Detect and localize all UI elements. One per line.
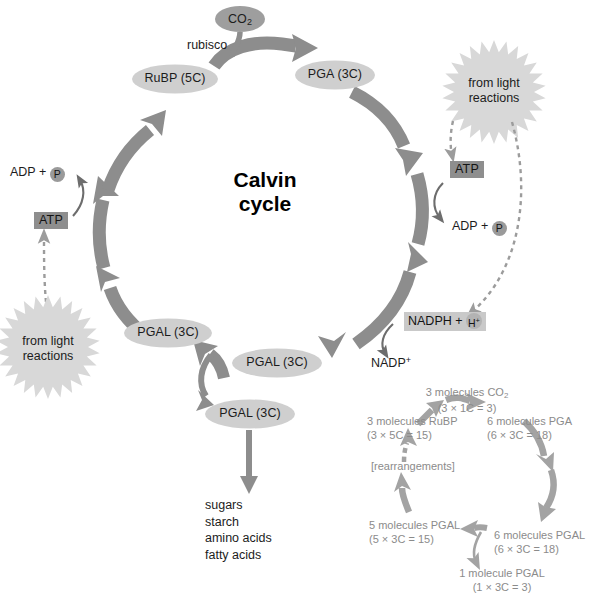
cycle-arrow-to-pgal — [318, 272, 410, 358]
right-light-line1: from light — [468, 76, 519, 90]
summary-pga-line1: 6 molecules PGA — [487, 415, 572, 427]
summary-pgal5-line1: 5 molecules PGAL — [369, 519, 460, 531]
summary-rearrangements-label: [rearrangements] — [371, 459, 491, 473]
cycle-arrow-pga-down — [352, 92, 423, 176]
right-light-dashed-atp — [451, 121, 453, 155]
summary-pgal6-line2: (6 × 3C = 18) — [494, 543, 559, 555]
proton-icon: H+ — [466, 313, 482, 329]
summary-pga-label: 6 molecules PGA(6 × 3C = 18) — [487, 414, 605, 442]
summary-rubp-line1: 3 molecules RuBP — [367, 415, 458, 427]
cycle-arrow-rubp-to-pga — [214, 34, 318, 66]
center-title-line1: Calvin — [233, 168, 296, 191]
summary-pga-line2: (6 × 3C = 18) — [487, 429, 552, 441]
cycle-arrow-left-middle — [93, 176, 119, 268]
left-phosphate-icon: P — [50, 167, 65, 182]
summary-arrow-right-down — [538, 470, 556, 522]
summary-pgal5-label: 5 molecules PGAL(5 × 3C = 15) — [369, 518, 491, 546]
nadph-text: NADPH + — [408, 314, 466, 328]
summary-arrow-pgal5-up — [394, 472, 411, 512]
summary-pgal6-label: 6 molecules PGAL(6 × 3C = 18) — [494, 528, 608, 556]
calvin-cycle-diagram: CO2 rubisco RuBP (5C) PGA (3C) PGAL (3C)… — [0, 0, 608, 600]
summary-pgal6-line1: 6 molecules PGAL — [494, 529, 585, 541]
node-label-pgal-bottom: PGAL (3C) — [231, 355, 323, 369]
center-title-line2: cycle — [239, 192, 292, 215]
node-label-pgal-exit: PGAL (3C) — [204, 406, 296, 420]
node-label-pga: PGA (3C) — [292, 67, 378, 81]
right-adp-text: ADP + — [452, 219, 492, 233]
summary-pgal1-line1: 1 molecule PGAL — [459, 567, 545, 579]
right-adp-label: ADP + P — [452, 219, 507, 236]
nadph-badge: NADPH + H+ — [404, 312, 486, 331]
right-atp-to-adp-arrow — [434, 183, 443, 218]
co2-label: CO2 — [215, 12, 265, 27]
cycle-arrow-right-middle — [407, 174, 428, 272]
right-light-reactions-label: from lightreactions — [448, 76, 540, 106]
summary-co2-label: 3 molecules CO2(3 × 1C = 3) — [392, 385, 542, 415]
summary-rubp-line2: (3 × 5C = 15) — [367, 429, 432, 441]
products-list: sugars starch amino acids fatty acids — [205, 497, 272, 564]
summary-rubp-label: 3 molecules RuBP(3 × 5C = 15) — [367, 414, 485, 442]
left-light-line1: from light — [22, 334, 73, 348]
left-atp-badge: ATP — [34, 212, 68, 229]
products-arrow — [240, 430, 258, 494]
left-light-dashed-arrow — [44, 236, 46, 302]
page-title: Calvincycle — [205, 168, 325, 216]
left-light-reactions-label: from lightreactions — [4, 334, 92, 364]
cycle-arrow-to-rubp — [108, 110, 166, 190]
left-adp-text: ADP + — [10, 165, 50, 179]
right-light-dashed-nadph — [472, 122, 521, 312]
right-atp-badge: ATP — [450, 161, 484, 178]
left-adp-label: ADP + P — [10, 165, 65, 182]
left-atp-to-adp-arrow — [73, 180, 83, 216]
rubisco-label: rubisco — [187, 38, 227, 52]
nadp-plus-label: NADP+ — [371, 355, 411, 370]
node-label-pgal-left: PGAL (3C) — [122, 325, 214, 339]
summary-pgal5-line2: (5 × 3C = 15) — [369, 533, 434, 545]
right-phosphate-icon: P — [492, 221, 507, 236]
right-light-line2: reactions — [469, 91, 520, 105]
summary-pgal1-line2: (1 × 3C = 3) — [473, 581, 532, 593]
summary-co2-line2: (3 × 1C = 3) — [438, 402, 497, 414]
node-label-rubp: RuBP (5C) — [130, 71, 220, 85]
summary-pgal1-label: 1 molecule PGAL(1 × 3C = 3) — [438, 566, 566, 594]
left-light-line2: reactions — [23, 349, 74, 363]
